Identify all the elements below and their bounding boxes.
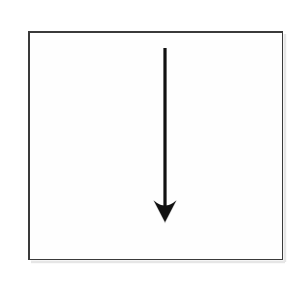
figure-canvas: Downward arrow inside a rectangular fram…	[0, 0, 300, 283]
frame-shadow-bottom	[31, 261, 285, 264]
rectangle-frame	[29, 32, 283, 260]
diagram-svg	[0, 0, 300, 283]
frame-highlight-left	[30, 33, 31, 258]
frame-shadow-right	[284, 34, 287, 262]
frame-highlight-top	[30, 33, 281, 34]
arrow-shaft	[163, 48, 166, 206]
